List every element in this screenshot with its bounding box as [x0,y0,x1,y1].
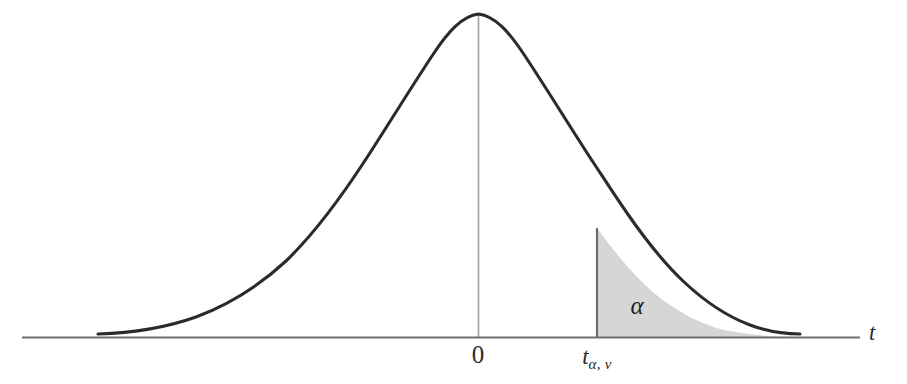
axis-variable-label: t [869,320,875,346]
mean-label: 0 [472,341,485,369]
density-curve [98,14,800,334]
t-distribution-figure [0,0,907,384]
critical-value-label: tα, ν [582,344,612,373]
tail-area-label: α [630,292,643,320]
shaded-tail-region [597,228,800,337]
critical-value-subscript: α, ν [589,356,612,372]
